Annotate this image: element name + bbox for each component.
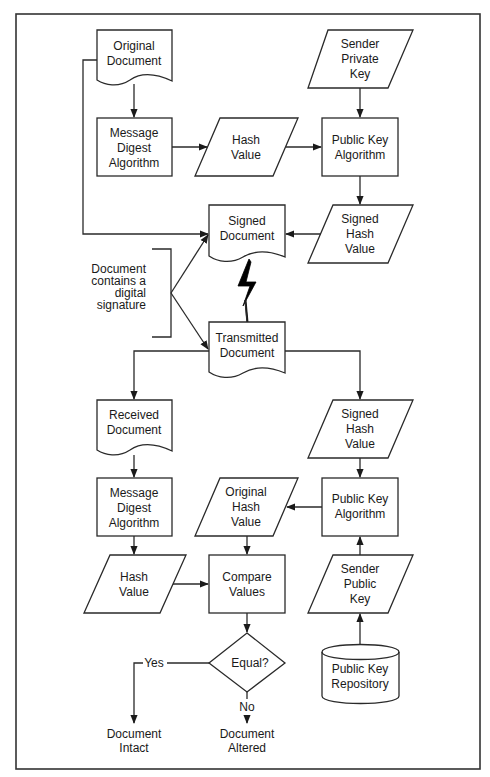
text-line: Algorithm [109,516,160,530]
compare-values-node: CompareValues [209,555,285,613]
text-line: Algorithm [109,156,160,170]
text-line: Hash [346,422,374,436]
text-line: Document [107,727,162,741]
text-line: Hash [346,227,374,241]
text-line: Yes [144,656,164,670]
text-line: Signed [228,214,265,228]
text-line: Message [110,126,159,140]
hash-value-label: HashValue [231,133,261,162]
text-line: Algorithm [335,507,386,521]
public-key-repository-node: Public KeyRepository [322,645,399,704]
text-line: Original [225,485,266,499]
text-line: Received [109,408,159,422]
text-line: Document [107,54,162,68]
signed-document-node: SignedDocument [209,205,285,261]
text-line: Hash [120,570,148,584]
text-line: Intact [119,741,149,755]
signed-hash-value-received-label: SignedHashValue [341,407,378,451]
hash-value-verify-node: HashValue [84,555,186,613]
text-line: Signed [341,407,378,421]
signed-hash-value-label: SignedHashValue [341,212,378,256]
text-line: Values [229,585,265,599]
public-key-algorithm-node: Public KeyAlgorithm [322,118,398,176]
text-line: Transmitted [216,331,279,345]
text-line: Public Key [332,133,389,147]
text-line: Algorithm [335,148,386,162]
annotation-bracket: Documentcontains adigitalsignature [91,235,208,349]
equal-decision-label: Equal? [231,656,269,670]
message-digest-verify-node: MessageDigestAlgorithm [97,478,172,536]
flowchart-canvas: OriginalDocument SenderPrivateKey Messag… [0,0,490,777]
text-line: Value [119,585,149,599]
signed-hash-value-node: SignedHashValue [308,205,413,263]
text-line: Value [345,437,375,451]
text-line: Equal? [231,656,269,670]
text-line: signature [97,298,147,312]
text-line: Hash [232,133,260,147]
public-key-algorithm-verify-node: Public KeyAlgorithm [322,478,398,536]
text-line: Signed [341,212,378,226]
text-line: Key [350,67,371,81]
original-hash-value-node: OriginalHashValue [195,478,298,536]
arrow-yes-to-intact [134,663,143,723]
original-document-label: OriginalDocument [107,39,162,68]
transmission-bolt-icon [238,259,256,322]
text-line: Digest [117,501,152,515]
text-line: Document [220,346,275,360]
document-intact-label: DocumentIntact [107,727,162,755]
transmitted-document-node: TransmittedDocument [209,322,285,377]
document-altered-label: DocumentAltered [220,727,275,755]
text-line: Altered [228,741,266,755]
signed-hash-value-received-node: SignedHashValue [308,400,413,458]
public-key-algorithm-label: Public KeyAlgorithm [332,133,389,162]
transmitted-document-label: TransmittedDocument [216,331,279,360]
yes-label: Yes [144,656,164,670]
text-line: Digest [117,141,152,155]
public-key-repository-label: Public KeyRepository [331,662,388,691]
hash-value-node: HashValue [195,118,298,176]
no-label: No [239,700,255,714]
text-line: Key [350,592,371,606]
compare-values-label: CompareValues [222,570,272,599]
text-line: Public [344,577,377,591]
text-line: Compare [222,570,272,584]
public-key-algorithm-verify-label: Public KeyAlgorithm [332,492,389,521]
text-line: No [239,700,255,714]
text-line: Repository [331,677,388,691]
text-line: Value [345,242,375,256]
text-line: Value [231,148,261,162]
text-line: Original [113,39,154,53]
hash-value-verify-label: HashValue [119,570,149,599]
text-line: Document [220,727,275,741]
received-document-node: ReceivedDocument [97,400,172,455]
text-line: Document [220,229,275,243]
text-line: Private [341,52,379,66]
annotation-label: Documentcontains adigitalsignature [91,262,146,312]
text-line: Value [231,515,261,529]
original-document-node: OriginalDocument [97,30,172,85]
sender-private-key-node: SenderPrivateKey [308,30,413,88]
sender-public-key-node: SenderPublicKey [308,555,413,613]
equal-decision-node: Equal? [209,633,285,692]
arrow-transmitted-to-signed-hash [285,351,360,399]
text-line: Public Key [332,662,389,676]
text-line: Message [110,486,159,500]
message-digest-node: MessageDigestAlgorithm [97,118,172,176]
text-line: Document [107,423,162,437]
text-line: Sender [341,37,380,51]
arrow-transmitted-to-received [134,351,209,399]
text-line: Hash [232,500,260,514]
text-line: Sender [341,562,380,576]
received-document-label: ReceivedDocument [107,408,162,437]
text-line: Public Key [332,492,389,506]
